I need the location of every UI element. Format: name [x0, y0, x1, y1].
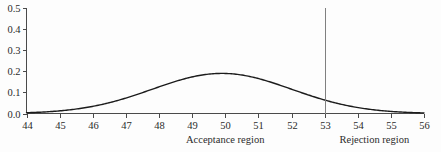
x-axis-tick-label: 50 — [220, 120, 231, 131]
y-axis-tick-label: 0.2 — [7, 66, 20, 77]
acceptance-region-label: Acceptance region — [186, 134, 265, 145]
x-axis-tick-label: 44 — [22, 120, 33, 131]
y-axis-tick-label: 0.3 — [7, 45, 20, 56]
y-axis-tick-label: 0.1 — [7, 87, 20, 98]
x-axis-tick-label: 56 — [419, 120, 430, 131]
x-axis-tick-label: 46 — [88, 120, 99, 131]
rejection-region-label: Rejection region — [339, 134, 409, 145]
x-axis-tick-label: 48 — [154, 120, 165, 131]
x-axis-tick-label: 54 — [353, 120, 364, 131]
plot-area: 0.00.10.20.30.40.5 444546474849505152535… — [0, 0, 441, 152]
x-axis-tick-label: 55 — [386, 120, 397, 131]
distribution-chart: 0.00.10.20.30.40.5 444546474849505152535… — [0, 0, 441, 152]
x-axis-tick-label: 45 — [55, 120, 66, 131]
x-axis-tick-label: 51 — [253, 120, 264, 131]
y-axis-tick-label: 0.0 — [7, 109, 20, 120]
x-axis-tick-label: 53 — [320, 120, 331, 131]
y-axis-tick-label: 0.5 — [7, 3, 20, 14]
y-axis-tick-label: 0.4 — [7, 24, 21, 35]
x-axis-tick-label: 52 — [287, 120, 298, 131]
x-axis-tick-label: 49 — [187, 120, 198, 131]
x-axis-tick-label: 47 — [121, 120, 132, 131]
